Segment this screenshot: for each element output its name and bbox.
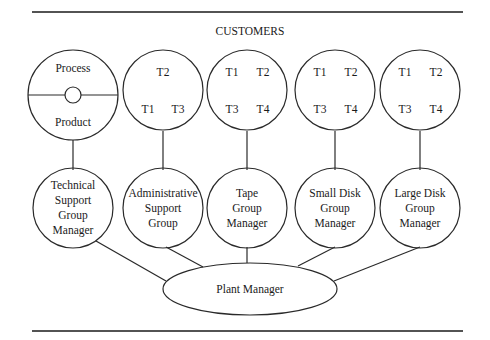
node-label-line: Group — [58, 209, 88, 222]
process-label: Process — [55, 62, 91, 74]
small-disk-teams-node: T1 T2 T3 T4 — [295, 50, 375, 130]
hub-circle — [65, 87, 81, 103]
technical-support-node: Technical Support Group Manager — [33, 168, 113, 248]
node-label-line: Group — [232, 202, 262, 215]
node-label-line: Manager — [53, 224, 94, 237]
plant-manager-node: Plant Manager — [163, 263, 337, 315]
node-label-line: Group — [405, 202, 435, 215]
node-label-line: Technical — [51, 179, 96, 191]
node-circle — [380, 50, 460, 130]
node-label-line: Small Disk — [309, 187, 361, 199]
tape-group-node: Tape Group Manager — [207, 168, 287, 248]
node-label-line: Manager — [227, 217, 268, 230]
node-label-line: Tape — [236, 187, 258, 200]
team-label: T1 — [314, 66, 327, 78]
connector-line — [334, 247, 420, 281]
team-label: T1 — [226, 66, 239, 78]
team-label: T3 — [314, 103, 327, 115]
administrative-support-node: Administrative Support Group — [123, 168, 203, 248]
team-label: T2 — [257, 66, 270, 78]
team-label: T1 — [399, 66, 412, 78]
node-label-line: Support — [55, 194, 92, 207]
tape-teams-node: T1 T2 T3 T4 — [207, 50, 287, 130]
small-disk-group-node: Small Disk Group Manager — [295, 168, 375, 248]
connector-line — [166, 247, 203, 267]
connector-line — [298, 247, 335, 266]
org-diagram: CUSTOMERS Process Product T2 T1 T3 T1 T2… — [0, 0, 490, 340]
process-product-node: Process Product — [28, 50, 118, 140]
team-label: T2 — [430, 66, 443, 78]
node-label-line: Group — [320, 202, 350, 215]
node-label-line: Manager — [315, 217, 356, 230]
node-label-line: Administrative — [129, 187, 198, 199]
team-label: T2 — [157, 66, 170, 78]
product-label: Product — [55, 116, 92, 128]
team-label: T4 — [345, 103, 358, 115]
plant-manager-label: Plant Manager — [216, 283, 284, 296]
team-label: T2 — [345, 66, 358, 78]
large-disk-teams-node: T1 T2 T3 T4 — [380, 50, 460, 130]
team-label: T4 — [257, 103, 270, 115]
team-label: T3 — [399, 103, 412, 115]
team-label: T3 — [172, 103, 185, 115]
node-label-line: Support — [145, 202, 182, 215]
team-label: T1 — [142, 103, 155, 115]
team-label: T3 — [226, 103, 239, 115]
diagram-title: CUSTOMERS — [216, 25, 285, 37]
node-label-line: Group — [148, 217, 178, 230]
node-label-line: Large Disk — [394, 187, 445, 200]
node-label-line: Manager — [400, 217, 441, 230]
node-circle — [207, 50, 287, 130]
team-label: T4 — [430, 103, 443, 115]
node-circle — [123, 50, 203, 130]
node-circle — [295, 50, 375, 130]
large-disk-group-node: Large Disk Group Manager — [380, 168, 460, 248]
admin-teams-node: T2 T1 T3 — [123, 50, 203, 130]
